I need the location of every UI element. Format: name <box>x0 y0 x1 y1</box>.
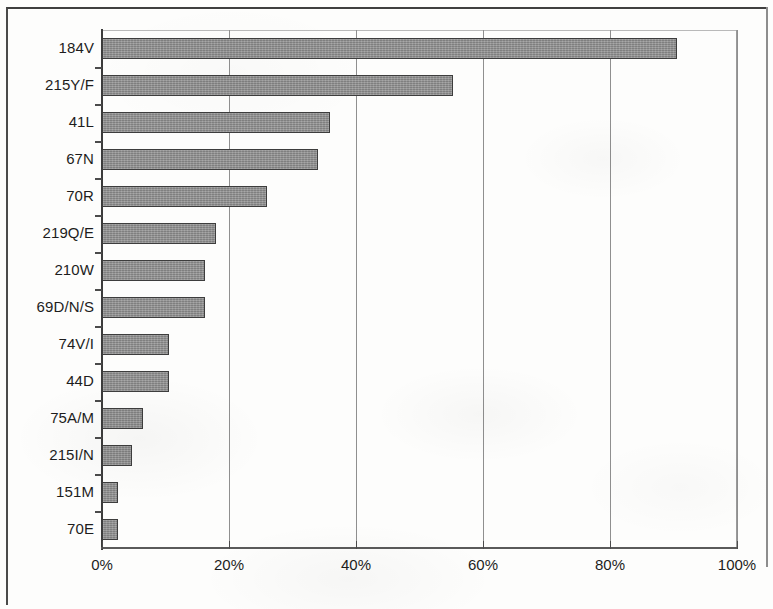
category-label: 75A/M <box>2 409 94 426</box>
bar-41L <box>102 112 330 133</box>
bar-75A-M <box>102 408 143 429</box>
x-tick-label: 20% <box>214 556 244 573</box>
y-axis-tick <box>95 326 102 328</box>
x-axis-tick <box>229 541 230 549</box>
category-label: 151M <box>2 483 94 500</box>
category-label: 70E <box>2 520 94 537</box>
category-label: 184V <box>2 39 94 56</box>
bar-row <box>102 511 737 548</box>
category-label: 67N <box>2 150 94 167</box>
y-axis-tick <box>95 400 102 402</box>
x-axis-tick <box>483 541 484 549</box>
bar-row <box>102 252 737 289</box>
x-axis-tick <box>356 541 357 549</box>
x-tick-label: 100% <box>718 556 756 573</box>
bar-44D <box>102 371 169 392</box>
category-label: 41L <box>2 113 94 130</box>
y-axis-tick <box>95 363 102 365</box>
category-label: 74V/I <box>2 335 94 352</box>
x-tick-label: 80% <box>595 556 625 573</box>
x-axis-tick <box>737 541 738 549</box>
bar-row <box>102 141 737 178</box>
bar-row <box>102 67 737 104</box>
y-axis-tick <box>95 252 102 254</box>
category-label: 215I/N <box>2 446 94 463</box>
bar-row <box>102 437 737 474</box>
bar-184V <box>102 38 677 59</box>
bar-70E <box>102 519 118 540</box>
bar-row <box>102 363 737 400</box>
category-label: 69D/N/S <box>2 298 94 315</box>
figure-border-right <box>766 7 768 567</box>
bar-215I-N <box>102 445 132 466</box>
bar-219Q-E <box>102 223 216 244</box>
y-axis-tick <box>95 474 102 476</box>
x-axis-tick <box>610 541 611 549</box>
y-axis-tick <box>95 104 102 106</box>
x-tick-label: 0% <box>91 556 113 573</box>
bar-row <box>102 400 737 437</box>
x-axis-line <box>101 547 738 549</box>
bar-row <box>102 30 737 67</box>
gridline-100pct <box>737 30 738 548</box>
bar-row <box>102 326 737 363</box>
category-label: 70R <box>2 187 94 204</box>
bar-215Y-F <box>102 75 453 96</box>
bar-69D-N-S <box>102 297 205 318</box>
bar-row <box>102 289 737 326</box>
y-axis-tick <box>95 141 102 143</box>
bar-74V-I <box>102 334 169 355</box>
bar-70R <box>102 186 267 207</box>
category-label: 219Q/E <box>2 224 94 241</box>
plot-area <box>102 30 737 548</box>
y-axis-tick <box>95 67 102 69</box>
x-axis-tick-labels: 0%20%40%60%80%100% <box>0 556 773 582</box>
x-axis-tick <box>102 541 103 549</box>
bar-row <box>102 104 737 141</box>
category-label: 210W <box>2 261 94 278</box>
y-axis-tick <box>95 178 102 180</box>
category-label: 215Y/F <box>2 76 94 93</box>
bar-row <box>102 215 737 252</box>
y-axis-category-labels: 184V215Y/F41L67N70R219Q/E210W69D/N/S74V/… <box>0 30 94 548</box>
y-axis-tick <box>95 215 102 217</box>
bar-210W <box>102 260 205 281</box>
bar-row <box>102 474 737 511</box>
x-tick-label: 60% <box>468 556 498 573</box>
category-label: 44D <box>2 372 94 389</box>
y-axis-tick <box>95 437 102 439</box>
bar-row <box>102 178 737 215</box>
chart-figure: 184V215Y/F41L67N70R219Q/E210W69D/N/S74V/… <box>0 0 773 609</box>
x-tick-label: 40% <box>341 556 371 573</box>
bar-151M <box>102 482 118 503</box>
y-axis-tick <box>95 289 102 291</box>
y-axis-tick <box>95 511 102 513</box>
bar-67N <box>102 149 318 170</box>
